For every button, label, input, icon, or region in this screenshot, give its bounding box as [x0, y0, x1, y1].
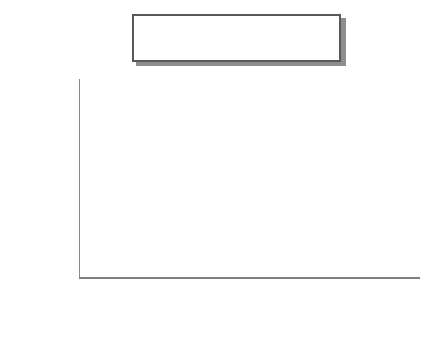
older-swatch-icon: [244, 41, 259, 56]
legend-entry-older: [244, 41, 265, 56]
y-axis-title: [12, 100, 30, 260]
legend-entries: [134, 41, 339, 56]
legend-entry-younger: [209, 41, 230, 56]
y-axis-line: [79, 79, 80, 278]
x-axis-line: [79, 277, 420, 279]
bar-chart-figure: [0, 0, 445, 339]
younger-swatch-icon: [209, 41, 224, 56]
legend-box: [132, 14, 341, 62]
